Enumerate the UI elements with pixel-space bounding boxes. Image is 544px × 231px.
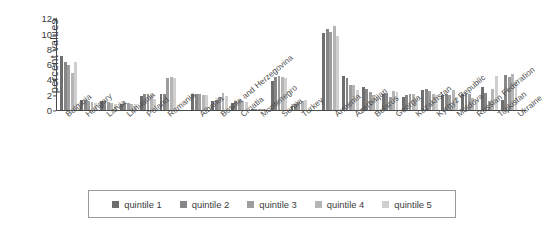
y-tick-mark xyxy=(53,80,57,81)
y-tick-label: 8 xyxy=(34,45,52,55)
legend-label: quintile 1 xyxy=(124,199,162,210)
legend-swatch-icon xyxy=(315,201,322,208)
legend-swatch-icon xyxy=(382,201,389,208)
bar-group xyxy=(120,18,137,110)
y-tick-label: 6 xyxy=(34,60,52,70)
y-tick-label: 10 xyxy=(34,30,52,40)
bar-group xyxy=(160,18,177,110)
y-tick-mark xyxy=(53,34,57,35)
bar-group xyxy=(60,18,77,110)
legend-label: quintile 2 xyxy=(192,199,230,210)
legend-item[interactable]: quintile 4 xyxy=(315,199,365,210)
x-axis-labels: BulgariaHungaryLatviaLithuaniaPolandRoma… xyxy=(56,112,526,174)
y-tick-label: 12 xyxy=(34,15,52,25)
legend-item[interactable]: quintile 1 xyxy=(112,199,162,210)
legend-swatch-icon xyxy=(247,201,254,208)
legend-label: quintile 4 xyxy=(327,199,365,210)
y-tick-mark xyxy=(53,19,57,20)
legend-label: quintile 3 xyxy=(259,199,297,210)
legend-label: quintile 5 xyxy=(394,199,432,210)
bar xyxy=(336,36,339,109)
y-tick-label: 4 xyxy=(34,76,52,86)
chart-legend: quintile 1quintile 2quintile 3quintile 4… xyxy=(88,190,456,218)
block-gap xyxy=(310,18,322,110)
bar-group xyxy=(322,18,339,110)
legend-item[interactable]: quintile 2 xyxy=(180,199,230,210)
y-tick-label: 2 xyxy=(34,91,52,101)
y-tick-mark xyxy=(53,65,57,66)
legend-swatch-icon xyxy=(112,201,119,208)
legend-swatch-icon xyxy=(180,201,187,208)
legend-item[interactable]: quintile 5 xyxy=(382,199,432,210)
y-tick-mark xyxy=(53,49,57,50)
legend-item[interactable]: quintile 3 xyxy=(247,199,297,210)
y-tick-mark xyxy=(53,95,57,96)
region-block xyxy=(60,18,179,110)
y-tick-label: 0 xyxy=(34,106,52,116)
